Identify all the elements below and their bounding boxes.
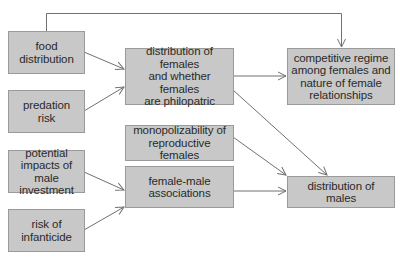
node-label: female-male associations — [146, 175, 212, 200]
node-male-investment: potential impacts of male investment — [8, 150, 85, 193]
node-monopolizability: monopolizability of reproductive females — [125, 125, 234, 161]
node-label: distribution of males — [306, 180, 377, 205]
node-label: food distribution — [17, 40, 75, 65]
node-label: competitive regime among females and nat… — [289, 52, 392, 102]
node-female-distribution: distribution of females and whether fema… — [125, 48, 234, 105]
node-predation-risk: predation risk — [8, 90, 85, 133]
node-male-distribution: distribution of males — [287, 176, 395, 208]
edge-food-to-competitive-regime — [47, 14, 342, 48]
edge-food-to-female-distribution — [84, 52, 124, 69]
node-label: predation risk — [21, 99, 72, 124]
edge-predation-to-female-distribution — [84, 87, 124, 111]
node-label: distribution of females and whether fema… — [126, 45, 233, 108]
edge-monopolizability-to-male-distribution — [233, 137, 286, 175]
edge-male-investment-to-associations — [84, 172, 124, 190]
edge-infanticide-to-associations — [84, 207, 124, 230]
node-female-male-associations: female-male associations — [125, 166, 234, 208]
node-label: monopolizability of reproductive females — [126, 124, 233, 162]
node-label: risk of infanticide — [19, 218, 74, 243]
node-competitive-regime: competitive regime among females and nat… — [287, 48, 395, 105]
node-food-distribution: food distribution — [8, 31, 85, 74]
node-infanticide-risk: risk of infanticide — [8, 209, 85, 252]
node-label: potential impacts of male investment — [9, 147, 84, 197]
